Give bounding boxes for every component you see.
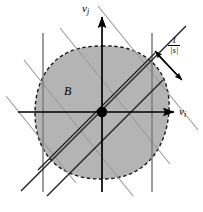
y-axis-label-subscript: j — [87, 7, 89, 16]
origin-point — [97, 107, 107, 117]
spacing-denominator: |s| — [168, 46, 180, 55]
spacing-fraction-label: 1 |s| — [168, 36, 180, 55]
y-axis-label: vj — [82, 3, 89, 16]
lattice-diagram-svg — [0, 0, 203, 212]
x-axis-label: vi — [179, 106, 186, 119]
figure-canvas: vi vj B 1 |s| — [0, 0, 203, 212]
x-axis-label-subscript: i — [184, 110, 186, 119]
region-b-label: B — [64, 85, 71, 97]
